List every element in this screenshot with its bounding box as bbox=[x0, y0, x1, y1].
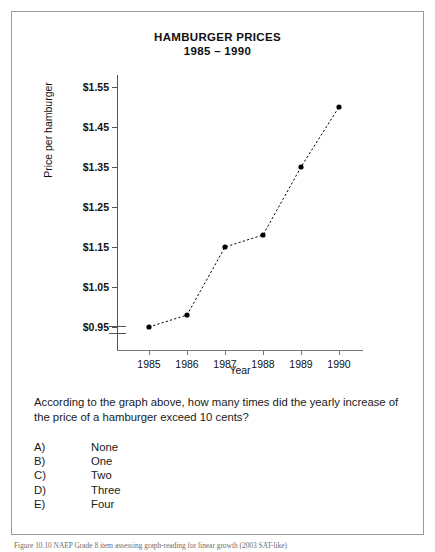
answer-choice[interactable]: C)Two bbox=[34, 468, 412, 482]
answer-choice-letter: E) bbox=[34, 497, 91, 511]
answer-choice[interactable]: E)Four bbox=[34, 497, 412, 511]
page-root: HAMBURGER PRICES 1985 – 1990 Price per h… bbox=[0, 0, 435, 552]
answer-choice-label: Four bbox=[91, 497, 412, 511]
answer-choice-label: None bbox=[91, 440, 412, 454]
x-tick-label: 1989 bbox=[289, 358, 312, 370]
data-point-marker bbox=[146, 324, 151, 329]
chart-container: HAMBURGER PRICES 1985 – 1990 Price per h… bbox=[12, 12, 423, 384]
data-point-marker bbox=[184, 312, 189, 317]
chart-subtitle: 1985 – 1990 bbox=[12, 45, 423, 57]
x-tick-label: 1986 bbox=[175, 358, 198, 370]
question-text: According to the graph above, how many t… bbox=[34, 395, 412, 425]
y-tick-label: $1.05 bbox=[83, 281, 109, 293]
x-tick-label: 1987 bbox=[213, 358, 236, 370]
chart-title: HAMBURGER PRICES bbox=[12, 31, 423, 43]
answer-choices: A)NoneB)OneC)TwoD)ThreeE)Four bbox=[34, 440, 412, 511]
y-axis-title: Price per hamburger bbox=[42, 50, 54, 210]
answer-choice-letter: A) bbox=[34, 440, 91, 454]
x-tick-label: 1990 bbox=[327, 358, 350, 370]
answer-choice-label: One bbox=[91, 454, 412, 468]
y-tick-label: $1.15 bbox=[83, 241, 109, 253]
data-point-marker bbox=[336, 104, 341, 109]
answer-choice[interactable]: A)None bbox=[34, 440, 412, 454]
answer-choice-letter: C) bbox=[34, 468, 91, 482]
y-tick-label: $1.25 bbox=[83, 201, 109, 213]
data-point-marker bbox=[260, 232, 265, 237]
answer-choice-label: Three bbox=[91, 483, 412, 497]
y-tick-label: $1.45 bbox=[83, 121, 109, 133]
answer-choice[interactable]: D)Three bbox=[34, 483, 412, 497]
y-tick-label: $1.55 bbox=[83, 81, 109, 93]
y-tick-label: $0.95 bbox=[83, 321, 109, 333]
figure-caption: Figure 10.10 NAEP Grade 8 item assessing… bbox=[14, 541, 434, 550]
plot-area: $1.55$1.45$1.35$1.25$1.15$1.05$0.95 1985… bbox=[117, 75, 363, 351]
data-point-marker bbox=[298, 164, 303, 169]
data-point-marker bbox=[222, 244, 227, 249]
question-block: According to the graph above, how many t… bbox=[34, 395, 412, 511]
answer-choice[interactable]: B)One bbox=[34, 454, 412, 468]
answer-choice-letter: B) bbox=[34, 454, 91, 468]
test-item-box: HAMBURGER PRICES 1985 – 1990 Price per h… bbox=[11, 11, 424, 535]
y-tick-label: $1.35 bbox=[83, 161, 109, 173]
series-line bbox=[149, 107, 339, 327]
answer-choice-label: Two bbox=[91, 468, 412, 482]
answer-choice-letter: D) bbox=[34, 483, 91, 497]
x-tick-label: 1988 bbox=[251, 358, 274, 370]
data-series bbox=[117, 75, 363, 351]
x-tick-label: 1985 bbox=[137, 358, 160, 370]
